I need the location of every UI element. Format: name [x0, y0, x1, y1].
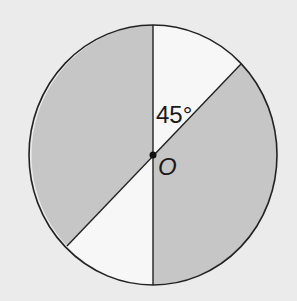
- center-label: O: [158, 153, 177, 180]
- circle-diagram: 45° O: [0, 0, 297, 301]
- angle-label: 45°: [156, 101, 192, 128]
- center-point: [150, 152, 157, 159]
